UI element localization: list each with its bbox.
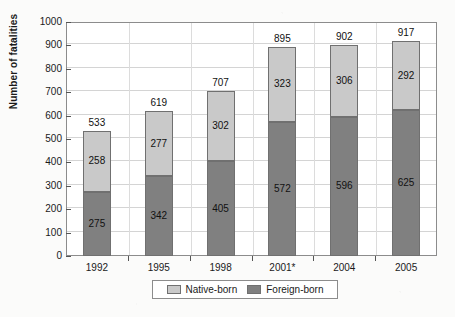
bar-segment-native-born-2005[interactable]: 292 [392,41,420,109]
legend-entry-foreign-born[interactable]: Foreign-born [247,284,323,295]
bar-total-label-2001: 895 [260,33,304,44]
legend-entry-native-born[interactable]: Native-born [167,284,238,295]
bar-segment-foreign-born-2001[interactable]: 572 [268,122,296,256]
y-tick-mark-500 [66,139,71,140]
y-tick-label-900: 900 [20,39,62,50]
x-tick-label-1995: 1995 [129,262,189,273]
segment-value-label: 342 [146,211,172,221]
legend-label: Foreign-born [266,284,323,295]
segment-value-label: 306 [331,76,357,86]
bar-segment-foreign-born-2005[interactable]: 625 [392,110,420,256]
y-tick-mark-800 [66,69,71,70]
x-tick-mark-2 [190,256,191,261]
y-tick-label-400: 400 [20,156,62,167]
x-tick-mark-1 [128,256,129,261]
y-tick-mark-1000 [66,22,71,23]
bar-segment-native-born-1992[interactable]: 258 [83,131,111,191]
y-tick-mark-600 [66,116,71,117]
stacked-bar-chart-figure: Number of fatalities 1000900800700600500… [0,0,455,317]
chart-legend: Native-bornForeign-born [152,280,338,299]
segment-value-label: 302 [208,121,234,131]
x-tick-mark-4 [313,256,314,261]
bar-total-label-1998: 707 [199,77,243,88]
y-tick-label-300: 300 [20,180,62,191]
bar-segment-native-born-2001[interactable]: 323 [268,47,296,123]
y-tick-mark-400 [66,162,71,163]
y-tick-label-800: 800 [20,63,62,74]
legend-swatch-icon [167,285,181,294]
bar-group-2004[interactable]: 596306902 [330,45,358,256]
y-tick-label-1000: 1000 [20,16,62,27]
segment-value-label: 277 [146,139,172,149]
segment-value-label: 323 [269,79,295,89]
bar-group-1998[interactable]: 405302707 [207,91,235,256]
bar-segment-foreign-born-2004[interactable]: 596 [330,117,358,256]
legend-label: Native-born [186,284,238,295]
bar-segment-native-born-2004[interactable]: 306 [330,45,358,117]
y-tick-label-500: 500 [20,133,62,144]
y-tick-mark-200 [66,209,71,210]
y-tick-mark-100 [66,233,71,234]
bar-segment-foreign-born-1995[interactable]: 342 [145,176,173,256]
x-tick-label-1992: 1992 [67,262,127,273]
y-tick-label-0: 0 [20,250,62,261]
segment-value-label: 292 [393,71,419,81]
y-tick-label-600: 600 [20,110,62,121]
x-tick-label-2004: 2004 [314,262,374,273]
x-tick-mark-5 [375,256,376,261]
bar-total-label-2005: 917 [384,27,428,38]
bar-total-label-1995: 619 [137,97,181,108]
segment-value-label: 596 [331,181,357,191]
bar-segment-native-born-1998[interactable]: 302 [207,91,235,162]
segment-value-label: 258 [84,156,110,166]
x-tick-label-2005: 2005 [376,262,436,273]
y-tick-mark-300 [66,186,71,187]
bar-group-2001[interactable]: 572323895 [268,47,296,256]
bar-group-1995[interactable]: 342277619 [145,111,173,256]
bar-total-label-2004: 902 [322,31,366,42]
legend-swatch-icon [247,285,261,294]
x-tick-mark-3 [252,256,253,261]
segment-value-label: 625 [393,178,419,188]
y-tick-mark-900 [66,45,71,46]
y-tick-label-100: 100 [20,227,62,238]
bar-total-label-1992: 533 [75,117,119,128]
y-tick-label-700: 700 [20,86,62,97]
y-tick-label-200: 200 [20,203,62,214]
bar-segment-foreign-born-1998[interactable]: 405 [207,161,235,256]
segment-value-label: 572 [269,184,295,194]
bar-group-2005[interactable]: 625292917 [392,41,420,256]
y-tick-mark-700 [66,92,71,93]
x-tick-label-1998: 1998 [191,262,251,273]
segment-value-label: 275 [84,219,110,229]
bar-group-1992[interactable]: 275258533 [83,131,111,256]
x-tick-label-2001: 2001* [252,262,312,273]
bar-segment-native-born-1995[interactable]: 277 [145,111,173,176]
bar-segment-foreign-born-1992[interactable]: 275 [83,192,111,256]
bars-layer: 2752585333422776194053027075723238955963… [66,22,437,256]
y-axis-tick-labels: 10009008007006005004003002001000 [18,22,62,256]
segment-value-label: 405 [208,204,234,214]
y-tick-mark-0 [66,256,71,257]
